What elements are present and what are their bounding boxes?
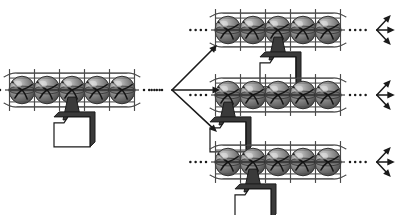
sphere-highlight bbox=[319, 153, 328, 160]
sphere-highlight bbox=[63, 81, 72, 88]
marker-face bbox=[235, 189, 271, 215]
dot bbox=[349, 29, 352, 32]
branch-arrow-0 bbox=[172, 45, 217, 90]
lead-dots bbox=[0, 89, 1, 92]
dot bbox=[364, 29, 367, 32]
branch-arrow-2 bbox=[172, 90, 217, 132]
folder-marker bbox=[235, 169, 276, 215]
sphere-highlight bbox=[244, 21, 253, 28]
arrow-shaft bbox=[377, 85, 386, 95]
terminator-fan bbox=[377, 80, 395, 110]
dot bbox=[364, 161, 367, 164]
sphere-2 bbox=[265, 81, 291, 109]
branch-arrows bbox=[150, 45, 220, 132]
sphere-highlight bbox=[269, 21, 278, 28]
dot bbox=[364, 94, 367, 97]
dot bbox=[189, 94, 192, 97]
sphere-2 bbox=[265, 148, 291, 176]
arrow-head bbox=[387, 92, 395, 99]
dot bbox=[143, 89, 146, 92]
dot bbox=[354, 29, 357, 32]
sphere-highlight bbox=[319, 86, 328, 93]
sphere-4 bbox=[315, 148, 341, 176]
dot bbox=[200, 94, 203, 97]
dot bbox=[205, 94, 208, 97]
sphere-highlight bbox=[219, 86, 228, 93]
arrow-head bbox=[387, 27, 395, 34]
variant-chain-bottom bbox=[189, 141, 395, 215]
source-chain bbox=[0, 69, 161, 147]
dot bbox=[0, 89, 1, 92]
folder-marker bbox=[210, 102, 251, 152]
arrow-shaft bbox=[377, 162, 386, 172]
lead-dots bbox=[189, 161, 207, 164]
sphere-highlight bbox=[319, 21, 328, 28]
sphere-highlight bbox=[219, 153, 228, 160]
sphere-4 bbox=[315, 16, 341, 44]
trail-dots bbox=[349, 94, 367, 97]
dot bbox=[205, 29, 208, 32]
sphere-4 bbox=[315, 81, 341, 109]
marker-face bbox=[54, 117, 90, 147]
sphere-highlight bbox=[269, 153, 278, 160]
folder-marker bbox=[54, 97, 95, 147]
arrow-shaft bbox=[377, 95, 386, 105]
dot bbox=[153, 89, 156, 92]
dot bbox=[148, 89, 151, 92]
sphere-highlight bbox=[294, 21, 303, 28]
trail-dots bbox=[349, 161, 367, 164]
dot bbox=[359, 161, 362, 164]
dot bbox=[354, 94, 357, 97]
dot bbox=[194, 161, 197, 164]
dot bbox=[161, 89, 164, 92]
dot bbox=[150, 89, 153, 92]
dot bbox=[359, 29, 362, 32]
dot bbox=[158, 89, 161, 92]
arrow-shaft bbox=[377, 20, 386, 30]
trail-dots bbox=[349, 29, 367, 32]
arrow-shaft bbox=[172, 50, 212, 90]
dot bbox=[205, 161, 208, 164]
terminator-fan bbox=[377, 15, 395, 45]
sphere-highlight bbox=[113, 81, 122, 88]
sphere-highlight bbox=[244, 153, 253, 160]
sphere-1 bbox=[240, 81, 266, 109]
dot bbox=[349, 94, 352, 97]
sphere-1 bbox=[34, 76, 60, 104]
sphere-3 bbox=[290, 148, 316, 176]
sphere-highlight bbox=[88, 81, 97, 88]
lead-dots bbox=[189, 94, 207, 97]
sphere-highlight bbox=[13, 81, 22, 88]
sphere-3 bbox=[290, 16, 316, 44]
folder-marker bbox=[260, 37, 301, 87]
sphere-highlight bbox=[244, 86, 253, 93]
dot bbox=[189, 29, 192, 32]
arrow-shaft bbox=[377, 152, 386, 162]
dot bbox=[200, 161, 203, 164]
dot bbox=[194, 94, 197, 97]
sphere-highlight bbox=[294, 86, 303, 93]
lead-dots bbox=[189, 29, 207, 32]
sphere-0 bbox=[215, 148, 241, 176]
arrow-shaft bbox=[377, 30, 386, 40]
sphere-highlight bbox=[269, 86, 278, 93]
dot bbox=[189, 161, 192, 164]
diagram-svg bbox=[0, 0, 402, 215]
sphere-0 bbox=[9, 76, 35, 104]
sphere-0 bbox=[215, 16, 241, 44]
sphere-highlight bbox=[38, 81, 47, 88]
sphere-highlight bbox=[294, 153, 303, 160]
dot bbox=[354, 161, 357, 164]
terminator-fan bbox=[377, 147, 395, 177]
dot bbox=[349, 161, 352, 164]
dot bbox=[156, 89, 159, 92]
dot bbox=[200, 29, 203, 32]
variant-chain-top bbox=[189, 9, 395, 87]
dot bbox=[359, 94, 362, 97]
sphere-3 bbox=[290, 81, 316, 109]
branch-arrow-1 bbox=[172, 87, 220, 94]
dot bbox=[194, 29, 197, 32]
figure-canvas: Branching chain diagram A horizontal cha… bbox=[0, 0, 402, 215]
sphere-3 bbox=[84, 76, 110, 104]
sphere-highlight bbox=[219, 21, 228, 28]
